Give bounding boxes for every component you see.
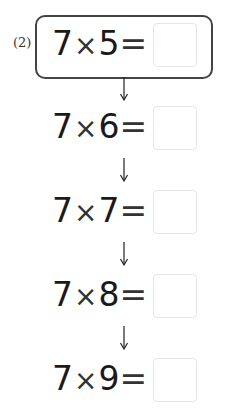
times-sign: × (74, 112, 97, 145)
equation-row-3: 7×7= (52, 190, 152, 234)
expression: 7×6= (52, 105, 152, 151)
factor-a: 7 (52, 359, 73, 398)
answer-box[interactable] (153, 358, 197, 402)
expression: 7×8= (52, 273, 152, 319)
equation-row-2: 7×6= (52, 106, 152, 150)
expression: 7×7= (52, 189, 152, 235)
times-sign: × (74, 280, 97, 313)
arrow-down-icon (119, 77, 129, 101)
times-sign: × (74, 196, 97, 229)
equation-row-1: 7×5= (52, 23, 152, 67)
equals-sign: = (119, 275, 147, 314)
equation-row-4: 7×8= (52, 274, 152, 318)
arrow-down-icon (119, 158, 129, 182)
equation-row-5: 7×9= (52, 358, 152, 402)
factor-a: 7 (52, 275, 73, 314)
factor-b: 9 (98, 359, 119, 398)
arrow-down-icon (119, 242, 129, 266)
equals-sign: = (119, 24, 147, 63)
factor-a: 7 (52, 107, 73, 146)
times-sign: × (74, 364, 97, 397)
answer-box[interactable] (153, 23, 197, 67)
factor-b: 5 (98, 24, 119, 63)
equals-sign: = (119, 191, 147, 230)
answer-box[interactable] (153, 190, 197, 234)
arrow-down-icon (119, 326, 129, 350)
factor-b: 7 (98, 191, 119, 230)
times-sign: × (74, 29, 97, 62)
factor-b: 6 (98, 107, 119, 146)
expression: 7×9= (52, 357, 152, 403)
factor-a: 7 (52, 191, 73, 230)
factor-a: 7 (52, 24, 73, 63)
equals-sign: = (119, 359, 147, 398)
equals-sign: = (119, 107, 147, 146)
answer-box[interactable] (153, 274, 197, 318)
problem-label: (2) (13, 35, 31, 50)
factor-b: 8 (98, 275, 119, 314)
expression: 7×5= (52, 22, 152, 68)
answer-box[interactable] (153, 106, 197, 150)
